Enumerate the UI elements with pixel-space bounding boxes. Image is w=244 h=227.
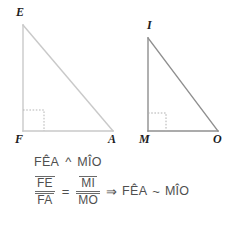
vertex-label-M: M bbox=[139, 133, 150, 145]
math-expressions: FÊA ^ MÎO FE FA = MI MO ⇒ FÊA ~ MÎO bbox=[0, 150, 244, 227]
fraction1-denominator: FA bbox=[35, 193, 54, 207]
triangle-EFA bbox=[23, 25, 113, 131]
implies-operator: ⇒ bbox=[106, 184, 117, 199]
fraction1-numerator: FE bbox=[35, 176, 55, 190]
fraction2-denominator: MO bbox=[76, 193, 100, 207]
right-angle-marker-M bbox=[148, 113, 166, 131]
angle-congruence-statement: FÊA ^ MÎO bbox=[34, 154, 102, 169]
fraction2-bar bbox=[76, 191, 100, 192]
triangles-svg bbox=[0, 0, 244, 150]
vertex-label-E: E bbox=[16, 6, 24, 18]
triangle-IMO bbox=[148, 38, 218, 131]
proportion-similarity-statement: FE FA = MI MO ⇒ FÊA ~ MÎO bbox=[34, 176, 189, 206]
triangle-MIO-similar-right: MÎO bbox=[165, 184, 190, 198]
fraction-MI-over-MO: MI MO bbox=[76, 176, 100, 206]
geometry-figure-area: E F A I M O bbox=[0, 0, 244, 150]
right-angle-marker-F bbox=[23, 110, 44, 131]
vertex-label-A: A bbox=[108, 133, 116, 145]
vertex-label-F: F bbox=[15, 133, 23, 145]
similarity-operator: ~ bbox=[152, 184, 160, 199]
congruence-operator: ^ bbox=[65, 154, 71, 169]
segment-IO-hypotenuse bbox=[148, 38, 218, 131]
vertex-label-O: O bbox=[213, 133, 222, 145]
triangle-FEA-similar-left: FÊA bbox=[122, 184, 147, 198]
equals-operator: = bbox=[62, 184, 70, 199]
angle-FEA-left: FÊA bbox=[34, 155, 59, 169]
angle-MIO-right: MÎO bbox=[77, 155, 102, 169]
segment-EA-hypotenuse bbox=[23, 25, 113, 131]
vertex-label-I: I bbox=[147, 19, 152, 31]
fraction2-numerator: MI bbox=[79, 176, 97, 190]
fraction-FE-over-FA: FE FA bbox=[35, 176, 55, 206]
fraction1-bar bbox=[35, 191, 55, 192]
